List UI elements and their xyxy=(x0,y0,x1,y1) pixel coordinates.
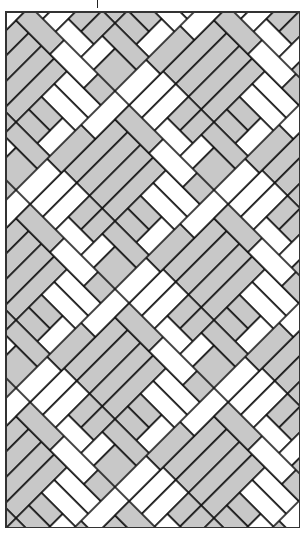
tick-mark xyxy=(97,0,98,8)
pattern-fill xyxy=(6,12,300,528)
pattern-frame xyxy=(5,11,300,528)
tiling-pattern xyxy=(6,12,300,528)
